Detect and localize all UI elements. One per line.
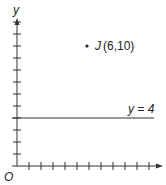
origin-label: O — [4, 171, 13, 183]
line-label: y = 4 — [128, 103, 154, 115]
x-axis-arrow-icon — [156, 164, 163, 169]
plane-graphic — [0, 0, 166, 185]
point-j-coords: (6,10) — [103, 40, 134, 52]
coordinate-plane: y O J (6,10) y = 4 — [0, 0, 166, 185]
point-j-name: J — [95, 40, 101, 52]
y-axis-label: y — [13, 4, 19, 16]
point-j-marker — [85, 44, 88, 47]
